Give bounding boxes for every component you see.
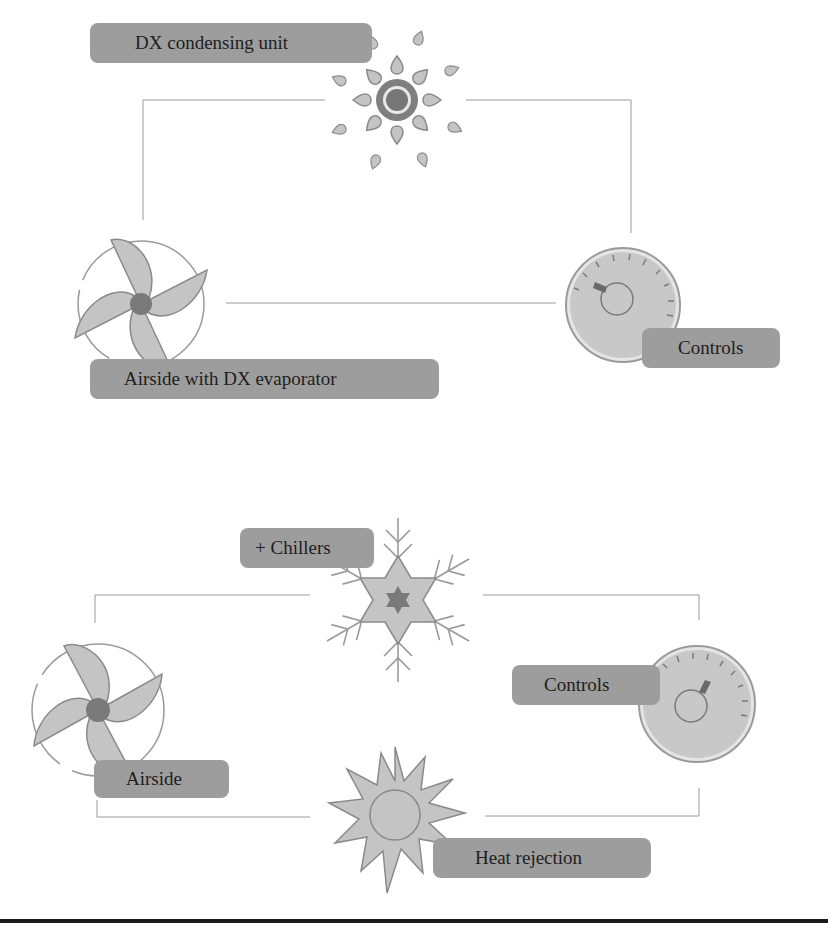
fan-icon	[32, 644, 164, 776]
label-text: DX condensing unit	[135, 32, 288, 54]
label-text: Controls	[678, 337, 743, 359]
top-connector-lines	[143, 100, 631, 303]
label-airside-dx-evaporator: Airside with DX evaporator	[90, 359, 439, 399]
label-chillers: + Chillers	[240, 528, 374, 568]
label-text: Airside	[126, 768, 182, 790]
label-controls-bottom: Controls	[512, 665, 660, 705]
label-text: Airside with DX evaporator	[124, 368, 337, 390]
label-text: Controls	[544, 674, 609, 696]
label-text: + Chillers	[255, 537, 331, 559]
label-airside: Airside	[94, 760, 229, 798]
label-heat-rejection: Heat rejection	[433, 838, 651, 878]
hvac-system-diagram: DX condensing unit Airside with DX evapo…	[0, 0, 828, 938]
fan-icon	[75, 239, 207, 369]
bottom-rule	[0, 919, 828, 923]
label-text: Heat rejection	[475, 847, 582, 869]
label-controls-top: Controls	[642, 328, 780, 368]
gauge-icon	[639, 646, 755, 762]
label-dx-condensing-unit: DX condensing unit	[90, 23, 372, 63]
